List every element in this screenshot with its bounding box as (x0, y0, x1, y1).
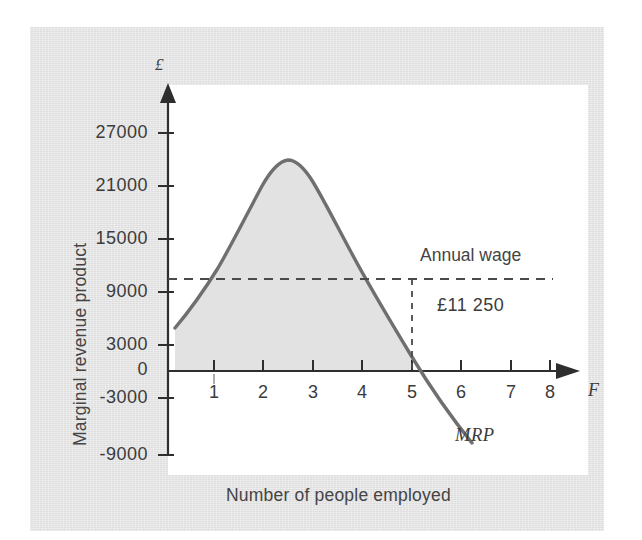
x-tick-label-8: 8 (535, 382, 565, 403)
x-tick-label-3: 3 (298, 382, 328, 403)
x-tick-label-1: 1 (199, 382, 229, 403)
x-tick-label-5: 5 (397, 382, 427, 403)
x-axis-title: Number of people employed (226, 485, 451, 506)
y-tick-label-27000: 27000 (56, 122, 148, 143)
y-axis-symbol: £ (155, 55, 164, 75)
y-tick-label-21000: 21000 (56, 175, 148, 196)
y-tick-label-neg3000: -3000 (46, 387, 148, 408)
y-axis-title: Marginal revenue product (70, 243, 91, 446)
plot-area (168, 85, 588, 475)
x-tick-label-7: 7 (496, 382, 526, 403)
y-tick-label-neg9000: -9000 (46, 444, 148, 465)
x-tick-label-4: 4 (347, 382, 377, 403)
figure-container: £ 27000 21000 15000 9000 3000 0 -3000 -9… (0, 0, 642, 540)
mrp-series-label: MRP (455, 425, 495, 446)
x-axis-symbol: F (588, 380, 599, 401)
x-tick-label-6: 6 (446, 382, 476, 403)
x-tick-label-2: 2 (248, 382, 278, 403)
annual-wage-label: Annual wage (420, 245, 521, 266)
annual-wage-value: £11 250 (437, 295, 504, 316)
